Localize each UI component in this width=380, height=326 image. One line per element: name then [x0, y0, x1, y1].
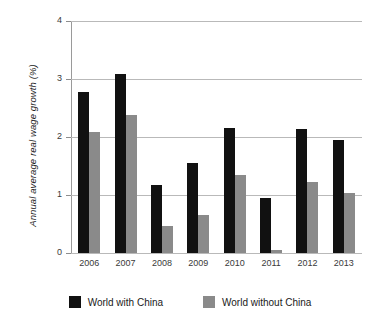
bar-2010-series-1 — [235, 175, 246, 253]
bar-group-2007 — [115, 21, 137, 253]
bar-2009-series-1 — [198, 215, 209, 253]
y-tick-label-4: 4 — [44, 15, 62, 25]
bar-2011-series-0 — [260, 198, 271, 253]
bar-chart: Annual average real wage growth (%) 0123… — [0, 0, 380, 326]
y-tick-label-1: 1 — [44, 189, 62, 199]
bar-group-2013 — [333, 21, 355, 253]
bar-2010-series-0 — [224, 128, 235, 253]
plot-area — [71, 21, 362, 253]
legend-swatch-icon-0 — [69, 296, 81, 308]
y-tick-label-0: 0 — [44, 247, 62, 257]
bar-2013-series-0 — [333, 140, 344, 253]
legend-item-0[interactable]: World with China — [69, 296, 163, 308]
bar-2007-series-0 — [115, 74, 126, 253]
bar-group-2012 — [296, 21, 318, 253]
y-axis-title: Annual average real wage growth (%) — [27, 40, 38, 252]
bar-group-2011 — [260, 21, 282, 253]
x-tick-label-2013: 2013 — [322, 258, 366, 268]
legend-swatch-icon-1 — [203, 296, 215, 308]
gridline-0 — [71, 253, 362, 254]
bar-2007-series-1 — [126, 115, 137, 253]
bar-2012-series-1 — [307, 182, 318, 253]
bar-2006-series-0 — [78, 92, 89, 253]
bar-group-2009 — [187, 21, 209, 253]
bar-group-2010 — [224, 21, 246, 253]
bar-group-2008 — [151, 21, 173, 253]
bar-2006-series-1 — [89, 132, 100, 253]
bar-2008-series-1 — [162, 226, 173, 253]
legend-item-1[interactable]: World without China — [203, 296, 311, 308]
bar-2009-series-0 — [187, 163, 198, 253]
bar-2013-series-1 — [344, 193, 355, 253]
legend-label-1: World without China — [222, 297, 311, 308]
bar-group-2006 — [78, 21, 100, 253]
bar-2011-series-1 — [271, 250, 282, 253]
legend-label-0: World with China — [88, 297, 163, 308]
bar-2008-series-0 — [151, 185, 162, 253]
y-tick-label-3: 3 — [44, 73, 62, 83]
chart-legend: World with ChinaWorld without China — [0, 296, 380, 308]
bar-2012-series-0 — [296, 129, 307, 253]
y-tick-label-2: 2 — [44, 131, 62, 141]
